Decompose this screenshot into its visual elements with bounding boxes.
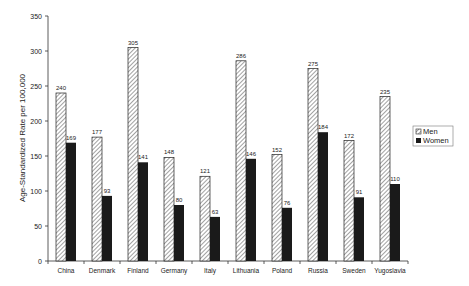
bar-value-label: 110	[390, 176, 400, 182]
bar-chart: 050100150200250300350 ChinaDenmarkFinlan…	[0, 0, 469, 286]
y-tick-label: 100	[30, 188, 42, 195]
x-category-label: Russia	[308, 267, 328, 274]
bar-value-label: 177	[92, 129, 103, 135]
bar-women	[246, 159, 256, 261]
y-tick-label: 200	[30, 118, 42, 125]
y-tick-label: 250	[30, 83, 42, 90]
legend-men-label: Men	[423, 127, 438, 136]
bar-value-label: 80	[176, 197, 183, 203]
bar-value-label: 141	[138, 154, 149, 160]
bar-value-label: 148	[164, 149, 175, 155]
bar-men	[380, 97, 390, 262]
bar-women	[102, 196, 112, 261]
bar-men	[236, 61, 246, 261]
y-tick-label: 150	[30, 153, 42, 160]
bar-value-label: 275	[308, 61, 319, 67]
y-axis: 050100150200250300350	[30, 13, 48, 265]
y-tick-label: 300	[30, 48, 42, 55]
bar-value-label: 240	[56, 85, 67, 91]
bar-value-label: 172	[344, 133, 355, 139]
bar-women	[354, 197, 364, 261]
bar-men	[92, 137, 102, 261]
bar-value-label: 152	[272, 147, 283, 153]
bar-value-label: 184	[318, 124, 329, 130]
bar-women	[282, 208, 292, 261]
x-category-label: Finland	[127, 267, 149, 274]
x-category-label: Denmark	[89, 267, 116, 274]
bar-men	[128, 48, 138, 262]
legend-women-label: Women	[423, 136, 449, 145]
bar-men	[56, 93, 66, 261]
x-category-label: China	[58, 267, 75, 274]
legend: Men Women	[413, 126, 453, 146]
legend-men-swatch	[416, 129, 421, 134]
bars	[56, 48, 400, 262]
bar-value-label: 235	[380, 89, 391, 95]
bar-men	[164, 157, 174, 261]
x-category-label: Italy	[204, 267, 217, 275]
bar-value-label: 93	[104, 188, 111, 194]
bar-value-label: 63	[212, 209, 219, 215]
bar-value-label: 169	[66, 135, 77, 141]
bar-women	[210, 217, 220, 261]
x-category-label: Poland	[272, 267, 293, 274]
bar-men	[308, 69, 318, 262]
y-axis-label: Age-Standardized Rate per 100,000	[18, 73, 27, 202]
bar-women	[66, 143, 76, 261]
bar-women	[138, 162, 148, 261]
bar-value-label: 286	[236, 53, 247, 59]
y-tick-label: 350	[30, 13, 42, 20]
x-category-label: Yugoslavia	[374, 267, 406, 275]
x-category-label: Lithuania	[233, 267, 260, 274]
bar-women	[174, 205, 184, 261]
bar-men	[200, 176, 210, 261]
bar-value-label: 121	[200, 168, 211, 174]
bar-women	[390, 184, 400, 261]
x-category-label: Sweden	[342, 267, 366, 274]
bar-value-label: 146	[246, 151, 257, 157]
x-axis: ChinaDenmarkFinlandGermanyItalyLithuania…	[48, 261, 408, 275]
x-category-label: Germany	[161, 267, 188, 275]
bar-women	[318, 132, 328, 261]
y-tick-label: 50	[34, 223, 42, 230]
bar-men	[272, 155, 282, 261]
bar-value-label: 305	[128, 40, 139, 46]
y-tick-label: 0	[38, 258, 42, 265]
legend-women-swatch	[416, 138, 421, 143]
bar-value-label: 91	[356, 189, 363, 195]
bar-value-label: 76	[284, 200, 291, 206]
bar-men	[344, 141, 354, 261]
